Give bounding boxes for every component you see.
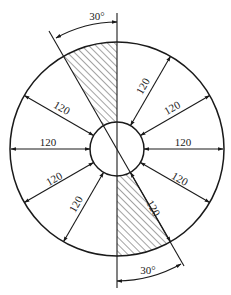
label-spoke-240: 120 [66,193,85,214]
hatched-sector-top [64,42,118,126]
label-spoke-neg30: 120 [170,169,191,188]
angle-label-bottom: 30° [140,264,155,276]
label-spoke-210: 120 [44,169,65,188]
label-spoke-150: 120 [52,98,73,117]
label-spoke-30: 120 [162,98,183,117]
label-spoke-0: 120 [175,136,192,148]
angle-arc-top [56,22,117,38]
angle-label-top: 30° [89,10,104,22]
hatched-sector-bottom [117,172,171,256]
diagram-canvas: 120 120 120 120 120 120 120 120 120 30° … [0,0,231,295]
label-spoke-180: 120 [40,136,57,148]
annulus-diagram: 120 120 120 120 120 120 120 120 120 30° … [0,0,231,295]
